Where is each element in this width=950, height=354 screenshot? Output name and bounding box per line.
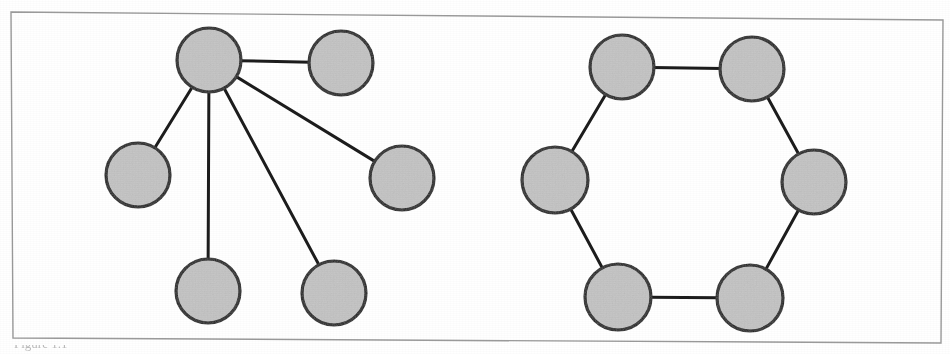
- graph-edge: [649, 297, 719, 298]
- graph-node: [522, 147, 588, 213]
- graph-figure-canvas: [0, 0, 950, 354]
- graph-node: [302, 261, 366, 325]
- graph-node: [585, 264, 651, 330]
- graph-node: [782, 150, 846, 214]
- graph-node: [106, 143, 170, 207]
- graph-node: [717, 265, 783, 331]
- graph-node: [177, 28, 241, 92]
- caption-strip: Figure 1.1: [0, 345, 950, 354]
- graph-node: [176, 259, 240, 323]
- graph-edge: [208, 90, 209, 261]
- graph-node: [370, 146, 434, 210]
- graph-edge: [652, 67, 722, 68]
- graph-node: [309, 31, 373, 95]
- graph-node: [720, 37, 784, 101]
- graph-edge: [239, 61, 311, 63]
- figure-page: Figure 1.1: [0, 0, 950, 354]
- caption-fragment: Figure 1.1: [14, 345, 67, 352]
- graph-node: [590, 35, 654, 99]
